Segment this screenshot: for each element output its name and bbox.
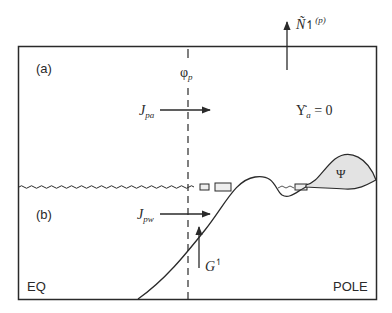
wavy-surface-segment [278, 186, 294, 188]
pole-label: POLE [333, 280, 368, 293]
panel-b-label: (b) [36, 208, 52, 221]
steady-state-equation: Υ̇a = 0 [296, 104, 333, 120]
diagram-canvas [0, 0, 392, 313]
upper-flux-label: Jpa [139, 104, 154, 120]
ice-sheet-label: Ψ [336, 167, 346, 180]
equator-label: EQ [27, 280, 46, 293]
lower-flux-label: Jpw [137, 208, 154, 224]
ice-floe-large [215, 183, 231, 191]
panel-a-label: (a) [36, 62, 52, 75]
top-flux-label: Ñ↿(p) [296, 16, 326, 32]
ground-flux-label: G↿ [205, 258, 223, 274]
ice-floe-small [200, 184, 209, 190]
latitude-label: φp [180, 66, 193, 82]
wavy-surface-line [19, 186, 194, 189]
topography-curve [138, 177, 308, 299]
